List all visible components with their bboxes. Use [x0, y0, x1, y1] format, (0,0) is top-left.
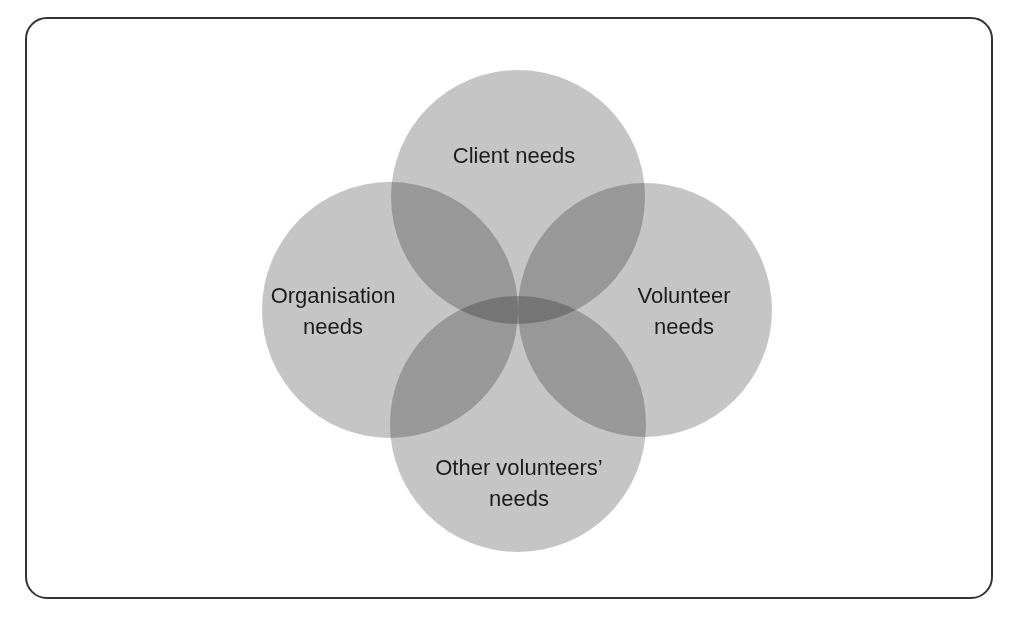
venn-circle-other-volunteers: [390, 296, 646, 552]
figure-root: .venn-circle { mix-blend-mode: multiply;…: [0, 0, 1019, 617]
venn-diagram: .venn-circle { mix-blend-mode: multiply;…: [0, 0, 1019, 617]
venn-circles-svg: .venn-circle { mix-blend-mode: multiply;…: [0, 0, 1019, 617]
